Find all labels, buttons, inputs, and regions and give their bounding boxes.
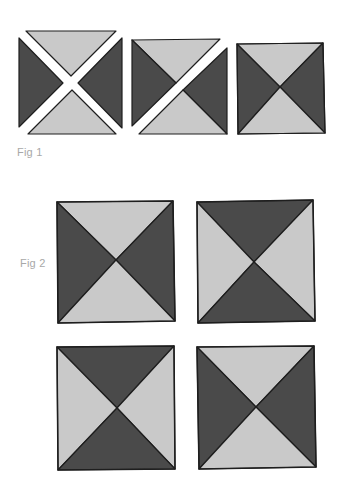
diagram-canvas <box>0 0 343 498</box>
fig2-block-bottom-right <box>197 346 316 469</box>
fig1-caption: Fig 1 <box>17 146 42 158</box>
fig1-block-two-halves <box>132 39 227 134</box>
fig2-block-top-left <box>57 201 175 323</box>
fig2-caption: Fig 2 <box>20 257 45 269</box>
fig1-block-complete <box>237 43 325 134</box>
fig2-block-top-right <box>197 200 315 323</box>
fig1-block-four-triangles <box>19 31 122 134</box>
fig2-block-bottom-left <box>57 346 175 470</box>
